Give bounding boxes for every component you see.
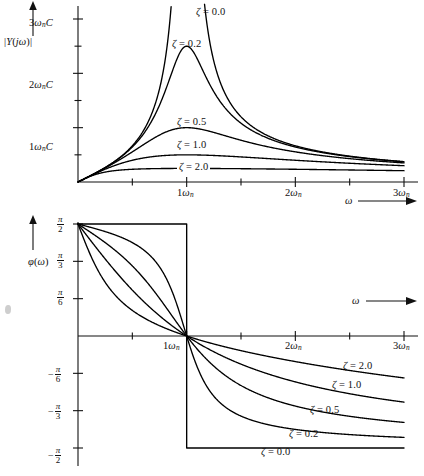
- phase-curve-label-zeta-0-0: ζ = 0.0: [261, 447, 290, 458]
- magnitude-xtick-label-1: 1ωn: [177, 188, 194, 199]
- magnitude-curve-label-zeta-2-0: ζ = 2.0: [177, 162, 210, 173]
- magnitude-curve-zeta-0-5: [78, 128, 404, 182]
- phase-curve-zeta-0-5: [78, 224, 404, 422]
- paper-smudge: [5, 305, 11, 314]
- phase-axis-arrow-head: [29, 215, 37, 224]
- magnitude-curve-label-zeta-0-5: ζ = 0.5: [177, 117, 206, 128]
- phase-omega-arrow-head: [406, 297, 417, 305]
- frequency-response-figure: |Y(jω)| 1ωnC 2ωnC 3ωnC 1ωn 2ωn 3ωn ω ζ =…: [0, 0, 424, 476]
- phase-xtick-label-3: 3ωn: [393, 341, 410, 352]
- phase-ytick-label-pi-over-3: π3: [56, 251, 64, 270]
- phase-curve-label-zeta-0-2: ζ = 0.2: [289, 429, 318, 440]
- magnitude-y-axis-label: |Y(jω)|: [4, 37, 32, 48]
- phase-curve-label-zeta-0-5: ζ = 0.5: [310, 405, 339, 416]
- phase-curve-label-zeta-2-0: ζ = 2.0: [343, 361, 372, 372]
- phase-ytick-label-neg-pi-over-6: −π6: [48, 365, 61, 384]
- magnitude-curve-label-zeta-0-0: ζ = 0.0: [196, 7, 225, 18]
- phase-curve-zeta-1: [78, 224, 404, 402]
- magnitude-x-axis-label: ω: [345, 196, 353, 207]
- phase-x-axis-label: ω: [352, 296, 360, 307]
- magnitude-xtick-label-3: 3ωn: [393, 188, 410, 199]
- magnitude-ytick-label-3: 3ωnC: [29, 18, 53, 29]
- magnitude-ytick-label-1: 1ωnC: [29, 142, 53, 153]
- magnitude-xtick-label-2: 2ωn: [285, 188, 302, 199]
- magnitude-axis-arrow-head: [29, 1, 37, 10]
- phase-ytick-label-pi-over-6: π6: [56, 288, 64, 307]
- phase-curve-zeta-0-2: [78, 224, 404, 437]
- figure-canvas: [0, 0, 424, 476]
- phase-xtick-label-2: 2ωn: [285, 341, 302, 352]
- phase-y-axis-label: φ(ω): [28, 257, 49, 268]
- phase-ytick-label-pi-over-2: π2: [56, 215, 64, 234]
- phase-xtick-label-1: 1ωn: [163, 341, 180, 352]
- phase-curve-label-zeta-1-0: ζ = 1.0: [332, 380, 361, 391]
- magnitude-ytick-label-2: 2ωnC: [29, 80, 53, 91]
- magnitude-curve-label-zeta-1-0: ζ = 1.0: [177, 140, 206, 151]
- magnitude-curve-label-zeta-0-2: ζ = 0.2: [172, 39, 201, 50]
- phase-ytick-label-neg-pi-over-3: −π3: [48, 402, 61, 421]
- phase-ytick-label-neg-pi-over-2: −π2: [48, 446, 61, 465]
